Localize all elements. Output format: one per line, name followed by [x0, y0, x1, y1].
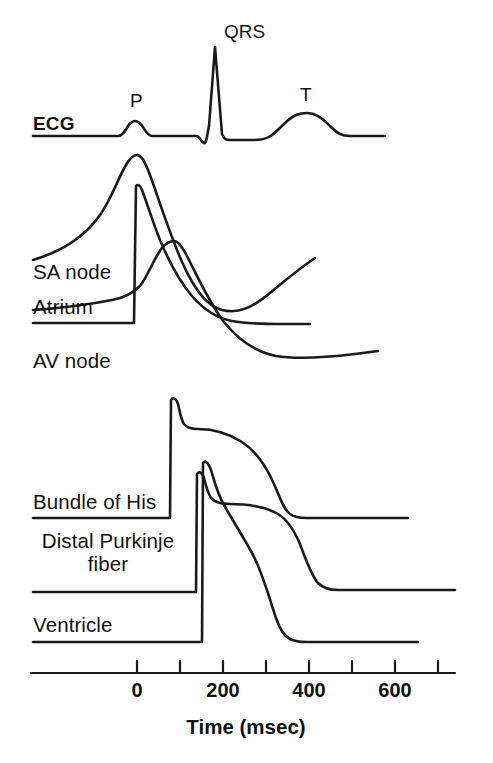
x-axis-tick-label-0: 0	[131, 680, 142, 701]
ventricle-label: Ventricle	[33, 614, 113, 636]
p-wave-label: P	[130, 91, 143, 111]
distal-purkinje-fiber-label: Distal Purkinje fiber	[33, 530, 183, 576]
t-wave-label: T	[300, 85, 312, 105]
x-axis-tick-label-400: 400	[292, 680, 325, 701]
distal-purkinje-fiber-label-line2: fiber	[33, 553, 183, 576]
x-axis-tick-label-600: 600	[378, 680, 411, 701]
x-axis-title: Time (msec)	[186, 716, 305, 738]
qrs-complex-label: QRS	[224, 22, 265, 42]
x-axis-tick-label-200: 200	[206, 680, 239, 701]
atrium-label: Atrium	[33, 296, 93, 318]
cardiac-conduction-figure: ECG P QRS T SA node Atrium AV node Bundl…	[0, 0, 493, 763]
bundle-of-his-label: Bundle of His	[33, 491, 156, 513]
sa-node-trace	[33, 155, 315, 311]
distal-purkinje-fiber-label-line1: Distal Purkinje	[33, 530, 183, 553]
sa-node-label: SA node	[33, 261, 111, 283]
ecg-trace	[33, 47, 385, 143]
av-node-label: AV node	[33, 350, 111, 372]
ecg-label: ECG	[33, 114, 75, 134]
